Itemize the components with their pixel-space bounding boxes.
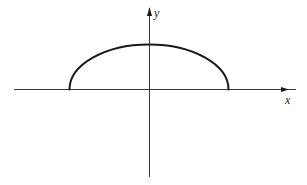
coordinate-diagram: y x [0, 0, 307, 185]
y-axis-arrow-icon [147, 7, 152, 16]
x-axis-arrow-icon [281, 87, 289, 92]
y-axis-label: y [153, 6, 160, 20]
x-axis-label: x [284, 93, 291, 107]
